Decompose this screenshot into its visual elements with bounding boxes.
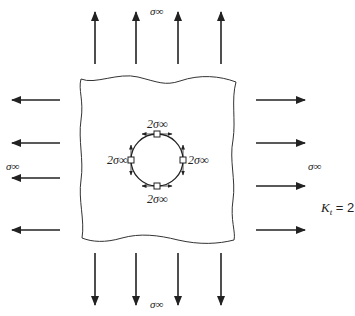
right-load-arrows (256, 100, 305, 230)
label-hole-bottom: 2σ∞ (147, 192, 168, 206)
label-left-sigma: σ∞ (6, 160, 19, 172)
stress-diagram: σ∞ σ∞ σ∞ σ∞ 2σ∞ 2σ∞ 2σ∞ 2σ∞ Kt = 2 (0, 0, 355, 316)
kt-value: = 2 (332, 200, 354, 215)
label-hole-top: 2σ∞ (147, 117, 168, 131)
label-hole-left: 2σ∞ (107, 153, 128, 167)
label-kt: Kt = 2 (320, 200, 354, 217)
label-top-sigma: σ∞ (150, 5, 163, 17)
hole-circle (131, 134, 183, 186)
label-hole-right: 2σ∞ (188, 153, 209, 167)
stress-elements (128, 131, 186, 189)
plate-outline (80, 76, 236, 244)
top-load-arrows (95, 12, 221, 64)
label-right-sigma: σ∞ (308, 160, 321, 172)
label-bottom-sigma: σ∞ (150, 298, 163, 310)
